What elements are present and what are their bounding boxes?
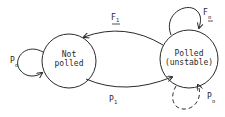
state-polled-line2: (unstable)	[165, 58, 213, 67]
transition-f1: F 1	[84, 13, 163, 45]
state-not-polled-line2: polled	[55, 59, 84, 68]
svg-text:o: o	[15, 62, 18, 68]
svg-text:o: o	[208, 14, 211, 20]
transition-po-self-polled-dashed: P o	[173, 85, 216, 109]
transition-po-self-not-polled: P o	[10, 49, 43, 76]
state-polled-unstable: Polled (unstable)	[160, 30, 218, 88]
state-not-polled-line1: Not	[62, 50, 77, 59]
svg-text:1: 1	[114, 99, 117, 105]
state-diagram: Not polled Polled (unstable) F 1 P 1 P o…	[0, 0, 225, 117]
svg-text:1: 1	[116, 17, 119, 23]
transition-p1: P 1	[86, 77, 172, 105]
state-polled-line1: Polled	[175, 49, 204, 58]
svg-text:o: o	[212, 98, 215, 104]
transition-fo-self-polled: F o	[169, 8, 213, 35]
